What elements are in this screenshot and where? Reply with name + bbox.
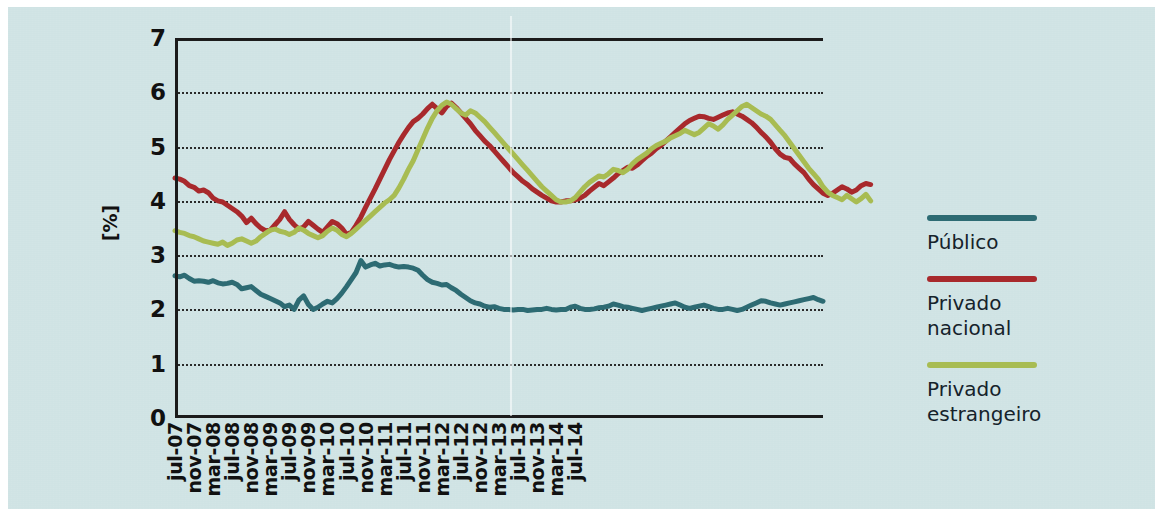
legend-entry: Privado estrangeiro — [927, 362, 1127, 428]
y-axis-ticks: 01234567 — [130, 38, 166, 418]
legend-label: Privado estrangeiro — [927, 377, 1127, 428]
legend-entry: Privado nacional — [927, 276, 1127, 342]
legend-swatch — [927, 276, 1037, 282]
chart-legend: PúblicoPrivado nacionalPrivado estrangei… — [927, 215, 1127, 448]
y-axis-label: [%] — [99, 205, 121, 241]
legend-swatch — [927, 215, 1037, 221]
y-tick-label: 6 — [132, 81, 166, 104]
legend-label: Privado nacional — [927, 291, 1127, 342]
y-tick-label: 1 — [132, 352, 166, 375]
legend-swatch — [927, 362, 1037, 368]
y-tick-label: 2 — [132, 298, 166, 321]
legend-label: Público — [927, 230, 1127, 256]
x-axis-ticks: jul-07nov-07mar-08jul-08nov-08mar-09jul-… — [175, 422, 823, 514]
chart-figure: [%] 01234567 jul-07nov-07mar-08jul-08nov… — [0, 0, 1163, 516]
y-tick-label: 5 — [132, 135, 166, 158]
y-tick-label: 4 — [132, 189, 166, 212]
plot-frame — [175, 38, 823, 418]
plot-area — [175, 38, 823, 418]
y-tick-label: 3 — [132, 244, 166, 267]
y-tick-label: 7 — [132, 27, 166, 50]
legend-entry: Público — [927, 215, 1127, 256]
y-tick-label: 0 — [132, 407, 166, 430]
